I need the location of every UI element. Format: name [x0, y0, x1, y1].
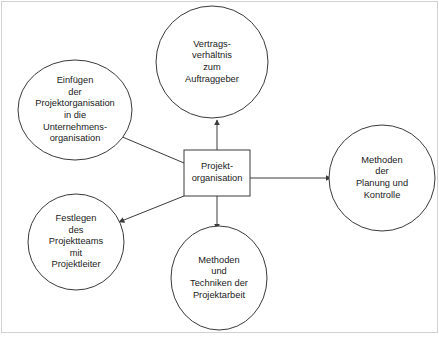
node-festlegen[interactable]: [28, 194, 124, 290]
node-einfuegen[interactable]: [18, 60, 132, 160]
node-vertragsverhaeltnis[interactable]: [156, 6, 268, 118]
diagram-graphics: [0, 0, 439, 340]
connector-center-to-einfuegen: [113, 133, 184, 163]
node-projektorganisation[interactable]: [184, 150, 250, 196]
node-methoden-techniken[interactable]: [171, 226, 267, 330]
node-methoden-planung[interactable]: [329, 125, 435, 231]
diagram-canvas: Vertrags- verhältnis zum Auftraggeber Ei…: [0, 0, 439, 340]
connector-center-to-festlegen: [119, 196, 184, 222]
